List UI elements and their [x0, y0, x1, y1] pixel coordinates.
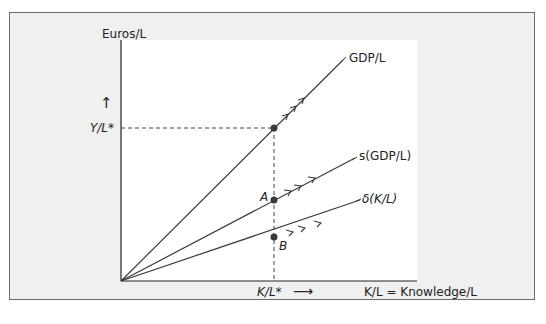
x-marker-arrow-icon: ⟶ — [293, 284, 313, 298]
depreciation-line — [121, 200, 360, 281]
x-axis-label: K/L = Knowledge/L — [364, 286, 477, 298]
point-a-label: A — [260, 191, 268, 203]
y-star-label: Y/L* — [90, 122, 114, 134]
gdp-per-l-line — [121, 60, 343, 281]
gdp-line-label: GDP/L — [349, 52, 386, 64]
solow-diagram — [0, 0, 546, 324]
depreciation-line-label: δ(K/L) — [362, 193, 397, 205]
steady-state-output-point — [271, 125, 278, 132]
point-a — [271, 197, 278, 204]
point-b — [271, 234, 278, 241]
gdp-label-leader — [343, 57, 346, 60]
savings-label-leader — [352, 157, 357, 160]
point-b-label: B — [279, 240, 287, 252]
y-axis-label: Euros/L — [102, 28, 146, 40]
y-marker-arrow-icon: ↑ — [100, 96, 113, 111]
k-star-label: K/L* — [257, 286, 282, 298]
savings-line — [121, 158, 355, 281]
savings-line-label: s(GDP/L) — [359, 150, 411, 162]
